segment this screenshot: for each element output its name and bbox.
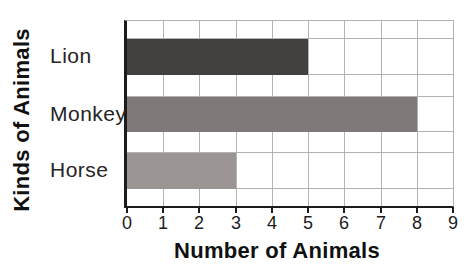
bar-chart-figure: Kinds of Animals LionMonkeyHorse 0123456… bbox=[0, 0, 468, 274]
x-tick-label: 4 bbox=[260, 214, 284, 232]
x-tick-label: 8 bbox=[405, 214, 429, 232]
bar-horse bbox=[127, 153, 236, 189]
bar-monkey bbox=[127, 97, 417, 132]
x-tick-label: 7 bbox=[369, 214, 393, 232]
bar-lion bbox=[127, 39, 308, 75]
x-tick-label: 2 bbox=[187, 214, 211, 232]
x-tick-label: 5 bbox=[296, 214, 320, 232]
y-axis-title: Kinds of Animals bbox=[8, 10, 36, 230]
category-label-monkey: Monkey bbox=[50, 102, 128, 126]
category-label-horse: Horse bbox=[50, 158, 128, 182]
x-tick-label: 1 bbox=[151, 214, 175, 232]
x-axis-title: Number of Animals bbox=[112, 237, 442, 265]
x-tick-label: 0 bbox=[115, 214, 139, 232]
x-tick-label: 9 bbox=[441, 214, 465, 232]
x-tick-label: 6 bbox=[332, 214, 356, 232]
category-label-lion: Lion bbox=[50, 44, 128, 68]
x-tick-label: 3 bbox=[224, 214, 248, 232]
plot-area bbox=[124, 20, 454, 208]
